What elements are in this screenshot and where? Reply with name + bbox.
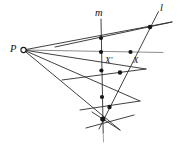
ray-4 xyxy=(24,50,141,101)
geometry-diagram: P m l X′ X xyxy=(0,0,187,150)
point-x xyxy=(128,50,132,54)
label-x-prime: X′ xyxy=(104,55,113,65)
label-x: X xyxy=(132,55,139,65)
ray-3 xyxy=(24,50,147,69)
point-on-m-3 xyxy=(99,68,103,72)
point-on-m-4 xyxy=(100,95,104,99)
point-on-l-1 xyxy=(148,25,153,30)
label-m: m xyxy=(95,7,103,18)
transversal-4 xyxy=(86,115,134,128)
point-on-m-5 xyxy=(100,116,105,121)
transversal-2 xyxy=(62,69,146,80)
label-P: P xyxy=(9,43,17,54)
point-p-marker xyxy=(21,47,26,52)
label-l: l xyxy=(160,2,163,13)
point-on-m-1 xyxy=(99,36,103,40)
point-on-l-3 xyxy=(118,70,122,74)
transversal-1 xyxy=(55,22,172,47)
figure-root: P m l X′ X xyxy=(0,0,187,150)
point-on-l-4 xyxy=(107,105,111,109)
ray-axis-through-X xyxy=(24,50,164,53)
point-x-prime xyxy=(99,50,103,54)
